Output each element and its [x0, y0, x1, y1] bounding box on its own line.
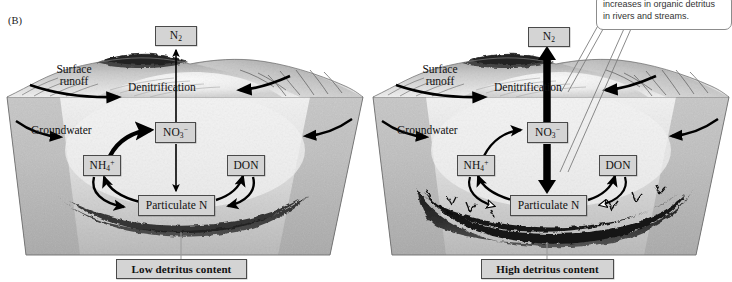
label-denitrification: Denitrification	[128, 81, 196, 93]
pool-label-nitrate: NO3−	[163, 126, 188, 140]
caption-box-low-detritus[interactable]: Low detritus content	[116, 259, 247, 279]
pool-label-nitrate: NO3−	[535, 126, 560, 140]
nitrogen-cycle-diagram	[0, 0, 732, 282]
surface-runoff-line-2: runoff	[44, 75, 104, 87]
pool-box-particulate-n[interactable]: Particulate N	[138, 195, 215, 216]
pool-label-particulate-n: Particulate N	[146, 200, 208, 212]
caption-box-high-detritus[interactable]: High detritus content	[481, 259, 614, 279]
pool-label-don: DON	[233, 160, 258, 172]
pool-label-don: DON	[605, 160, 630, 172]
arrow-nitrate-to-n2-head	[538, 46, 556, 60]
pool-box-n2[interactable]: N2	[528, 27, 570, 47]
pool-label-ammonium: NH4+	[463, 159, 488, 173]
label-surface-runoff: Surface runoff	[410, 63, 470, 87]
label-groundwater: Groundwater	[397, 124, 458, 136]
callout-box: increases in organic detritus in rivers …	[596, 0, 732, 30]
surface-runoff-line-1: Surface	[44, 63, 104, 75]
label-denitrification: Denitrification	[494, 81, 562, 93]
pool-box-n2[interactable]: N2	[155, 26, 197, 46]
pool-box-nitrate[interactable]: NO3−	[527, 122, 568, 143]
label-groundwater: Groundwater	[31, 124, 92, 136]
pool-box-don[interactable]: DON	[227, 155, 265, 176]
pool-box-don[interactable]: DON	[599, 155, 637, 176]
figure-canvas: (B) increases in organic detritus in riv…	[0, 0, 732, 282]
surface-runoff-line-1: Surface	[410, 63, 470, 75]
pool-label-ammonium: NH4+	[89, 159, 114, 173]
pool-box-particulate-n[interactable]: Particulate N	[510, 195, 587, 216]
callout-line-2: in rivers and streams.	[603, 10, 725, 22]
label-surface-runoff: Surface runoff	[44, 63, 104, 87]
pool-box-ammonium[interactable]: NH4+	[83, 155, 121, 176]
pool-label-n2: N2	[543, 31, 555, 44]
callout-line-1: increases in organic detritus	[603, 0, 725, 10]
pool-label-particulate-n: Particulate N	[518, 200, 580, 212]
panel-letter: (B)	[8, 15, 22, 26]
surface-runoff-line-2: runoff	[410, 75, 470, 87]
caption-label-high-detritus: High detritus content	[496, 264, 598, 275]
pool-box-nitrate[interactable]: NO3−	[155, 122, 196, 143]
pool-label-n2: N2	[170, 30, 182, 43]
pool-box-ammonium[interactable]: NH4+	[457, 155, 495, 176]
caption-label-low-detritus: Low detritus content	[132, 264, 232, 275]
